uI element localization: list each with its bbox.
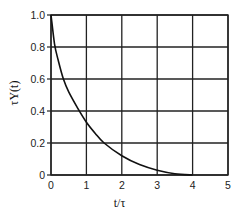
x-tick-label: 1 xyxy=(83,179,89,191)
y-tick-label: 0 xyxy=(39,169,45,181)
x-tick-label: 0 xyxy=(48,179,54,191)
y-tick-label: 0.4 xyxy=(30,105,45,117)
plot-frame xyxy=(51,15,228,175)
y-tick-label: 0.2 xyxy=(30,137,45,149)
chart: 01234500.20.40.60.81.0t/ττY(t) xyxy=(0,0,242,214)
x-tick-label: 5 xyxy=(225,179,231,191)
y-tick-label: 0.8 xyxy=(30,41,45,53)
x-axis-label: t/τ xyxy=(114,196,126,210)
x-tick-label: 3 xyxy=(154,179,160,191)
y-tick-label: 1.0 xyxy=(30,9,45,21)
y-tick-label: 0.6 xyxy=(30,73,45,85)
y-axis-label: τY(t) xyxy=(7,81,21,106)
x-tick-label: 2 xyxy=(119,179,125,191)
x-tick-label: 4 xyxy=(190,179,196,191)
